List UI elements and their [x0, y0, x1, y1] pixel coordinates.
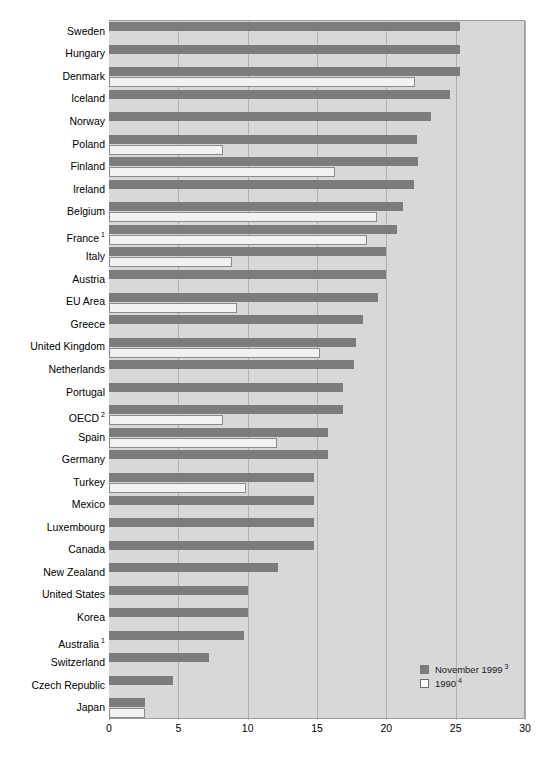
bar-row	[109, 269, 525, 292]
bar-november-1999	[109, 631, 244, 640]
category-label: Luxembourg	[0, 522, 105, 533]
bar-row	[109, 224, 525, 247]
gridline-30	[525, 21, 526, 720]
legend-label: 1990 4	[435, 674, 462, 691]
category-label: Germany	[0, 454, 105, 465]
x-tick-label: 0	[106, 722, 112, 734]
bar-1990	[109, 212, 377, 222]
bar-row	[109, 517, 525, 540]
category-label: Turkey	[0, 477, 105, 488]
category-label: Ireland	[0, 184, 105, 195]
bar-november-1999	[109, 541, 314, 550]
bar-november-1999	[109, 563, 278, 572]
bar-november-1999	[109, 653, 209, 662]
bar-row	[109, 607, 525, 630]
bar-row	[109, 382, 525, 405]
category-label: Switzerland	[0, 657, 105, 668]
bar-1990	[109, 257, 232, 267]
category-label: Norway	[0, 116, 105, 127]
bar-november-1999	[109, 315, 363, 324]
bar-row	[109, 495, 525, 518]
bar-november-1999	[109, 225, 397, 234]
bar-november-1999	[109, 473, 314, 482]
bar-row	[109, 540, 525, 563]
bar-november-1999	[109, 202, 403, 211]
bar-november-1999	[109, 676, 173, 685]
bar-november-1999	[109, 405, 343, 414]
category-label: Greece	[0, 319, 105, 330]
category-label: Hungary	[0, 48, 105, 59]
category-footnote-marker: 1	[99, 231, 105, 238]
bar-row	[109, 66, 525, 89]
bar-row	[109, 427, 525, 450]
bar-row	[109, 337, 525, 360]
category-label: Belgium	[0, 206, 105, 217]
bar-row	[109, 449, 525, 472]
category-axis-labels: SwedenHungaryDenmarkIcelandNorwayPolandF…	[0, 20, 105, 719]
bar-november-1999	[109, 67, 460, 76]
x-tick-label: 25	[450, 722, 462, 734]
category-label: Poland	[0, 139, 105, 150]
category-label: Spain	[0, 432, 105, 443]
x-tick-label: 15	[311, 722, 323, 734]
bar-1990	[109, 438, 277, 448]
category-label: Czech Republic	[0, 680, 105, 691]
category-label: United States	[0, 589, 105, 600]
bar-november-1999	[109, 338, 356, 347]
category-label: United Kingdom	[0, 341, 105, 352]
category-label: Austria	[0, 274, 105, 285]
bar-row	[109, 201, 525, 224]
category-label: Canada	[0, 544, 105, 555]
bar-row	[109, 111, 525, 134]
bar-rows	[109, 21, 525, 720]
x-tick-label: 5	[175, 722, 181, 734]
bar-november-1999	[109, 112, 431, 121]
category-label: Portugal	[0, 387, 105, 398]
category-label: Australia 1	[0, 635, 105, 650]
bar-1990	[109, 348, 320, 358]
bar-row	[109, 630, 525, 653]
category-label: Netherlands	[0, 364, 105, 375]
category-label: Italy	[0, 251, 105, 262]
bar-row	[109, 562, 525, 585]
category-label: Sweden	[0, 26, 105, 37]
bar-november-1999	[109, 496, 314, 505]
bar-row	[109, 156, 525, 179]
bar-november-1999	[109, 157, 418, 166]
legend-swatch-light	[420, 679, 429, 688]
legend-entry: 1990 4	[420, 676, 508, 690]
bar-november-1999	[109, 383, 343, 392]
legend-footnote-marker: 4	[456, 677, 462, 684]
bar-row	[109, 359, 525, 382]
bar-november-1999	[109, 135, 417, 144]
bar-november-1999	[109, 450, 328, 459]
category-label: Mexico	[0, 499, 105, 510]
bar-row	[109, 44, 525, 67]
category-label: Japan	[0, 702, 105, 713]
category-label: New Zealand	[0, 567, 105, 578]
bar-row	[109, 246, 525, 269]
bar-chart: SwedenHungaryDenmarkIcelandNorwayPolandF…	[0, 0, 555, 767]
bar-november-1999	[109, 608, 248, 617]
bar-1990	[109, 708, 145, 718]
bar-row	[109, 585, 525, 608]
bar-november-1999	[109, 698, 145, 707]
bar-row	[109, 89, 525, 112]
chart-legend: November 1999 31990 4	[420, 662, 508, 690]
bar-1990	[109, 145, 223, 155]
bar-november-1999	[109, 360, 354, 369]
legend-swatch-dark	[420, 665, 429, 674]
bar-november-1999	[109, 428, 328, 437]
category-label: Finland	[0, 161, 105, 172]
bar-november-1999	[109, 586, 248, 595]
legend-footnote-marker: 3	[503, 663, 509, 670]
category-label: Korea	[0, 612, 105, 623]
bar-november-1999	[109, 518, 314, 527]
category-footnote-marker: 1	[99, 637, 105, 644]
bar-november-1999	[109, 90, 450, 99]
x-tick-label: 30	[519, 722, 531, 734]
category-label: France 1	[0, 229, 105, 244]
bar-november-1999	[109, 22, 460, 31]
bar-november-1999	[109, 270, 386, 279]
category-footnote-marker: 2	[99, 411, 105, 418]
